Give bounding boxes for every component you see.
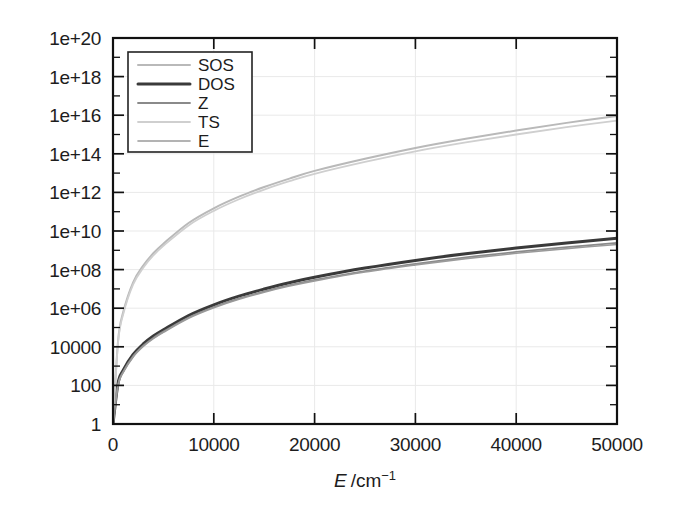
legend: SOSDOSZTSE xyxy=(128,52,252,152)
y-tick-label: 10000 xyxy=(50,337,101,358)
x-axis-title: E/cm−1 xyxy=(334,468,396,492)
y-tick-label: 1e+08 xyxy=(49,260,101,281)
figure-container: 1100100001e+061e+081e+101e+121e+141e+161… xyxy=(0,0,682,527)
curve-e xyxy=(113,244,617,424)
y-axis-tick-labels: 1100100001e+061e+081e+101e+121e+141e+161… xyxy=(49,28,102,435)
x-tick-label: 10000 xyxy=(188,434,239,455)
curve-dos xyxy=(113,238,617,424)
x-tick-label: 50000 xyxy=(591,434,642,455)
y-tick-label: 1 xyxy=(91,414,101,435)
x-tick-label: 0 xyxy=(108,434,118,455)
legend-label-ts: TS xyxy=(198,113,220,132)
chart-canvas: 1100100001e+061e+081e+101e+121e+141e+161… xyxy=(0,0,682,527)
y-tick-label: 1e+14 xyxy=(49,144,102,165)
x-tick-label: 30000 xyxy=(390,434,441,455)
x-tick-label: 40000 xyxy=(491,434,542,455)
y-tick-label: 100 xyxy=(70,375,101,396)
x-tick-label: 20000 xyxy=(289,434,340,455)
y-tick-label: 1e+10 xyxy=(49,221,101,242)
legend-label-e: E xyxy=(198,132,209,151)
y-tick-label: 1e+12 xyxy=(49,182,101,203)
legend-label-sos: SOS xyxy=(198,56,234,75)
y-tick-label: 1e+20 xyxy=(49,28,101,49)
curve-z xyxy=(113,243,617,424)
x-axis-tick-labels: 01000020000300004000050000 xyxy=(108,434,643,455)
y-tick-label: 1e+06 xyxy=(49,298,101,319)
legend-label-dos: DOS xyxy=(198,75,235,94)
y-tick-label: 1e+16 xyxy=(49,105,101,126)
legend-label-z: Z xyxy=(198,94,208,113)
y-tick-label: 1e+18 xyxy=(49,67,101,88)
